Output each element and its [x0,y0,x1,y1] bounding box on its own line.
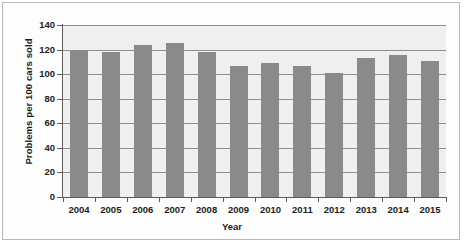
x-tick-mark-10 [382,197,383,202]
x-axis-title: Year [0,221,464,232]
y-tick-label-40: 40 [15,142,55,153]
y-axis-line [62,24,63,198]
y-tick-mark-100 [57,74,62,75]
y-tick-label-wrap-120: 120 [15,44,55,56]
bar-2012 [325,73,343,197]
bar-2005 [102,52,120,197]
y-tick-label-0: 0 [15,191,55,202]
y-tick-label-wrap-140: 140 [15,19,55,31]
bar-2010 [261,63,279,197]
gridline-140 [63,25,446,26]
plot-area [63,25,446,197]
x-tick-mark-12 [446,197,447,202]
gridline-120 [63,50,446,51]
x-tick-mark-11 [414,197,415,202]
bar-2015 [421,61,439,197]
y-tick-label-wrap-20: 20 [15,166,55,178]
y-tick-mark-80 [57,99,62,100]
y-tick-label-wrap-80: 80 [15,93,55,105]
y-tick-label-wrap-0: 0 [15,191,55,203]
bar-2011 [293,66,311,197]
x-tick-mark-9 [350,197,351,202]
y-tick-label-120: 120 [15,44,55,55]
x-tick-mark-4 [191,197,192,202]
x-tick-mark-2 [127,197,128,202]
y-tick-label-100: 100 [15,68,55,79]
x-tick-mark-5 [223,197,224,202]
y-tick-mark-60 [57,123,62,124]
x-tick-mark-0 [63,197,64,202]
bar-2013 [357,58,375,197]
x-tick-mark-7 [286,197,287,202]
y-tick-label-wrap-40: 40 [15,142,55,154]
x-tick-mark-3 [159,197,160,202]
y-tick-mark-0 [57,197,62,198]
y-tick-label-20: 20 [15,166,55,177]
x-tick-mark-6 [255,197,256,202]
x-tick-label-2015: 2015 [410,204,450,215]
bar-chart-figure: Problems per 100 cars sold 0204060801001… [0,0,464,248]
y-tick-label-80: 80 [15,93,55,104]
y-tick-label-60: 60 [15,117,55,128]
bar-2008 [198,52,216,197]
bar-2004 [70,51,88,197]
bar-2014 [389,55,407,198]
bar-2007 [166,43,184,197]
y-tick-label-wrap-100: 100 [15,68,55,80]
y-tick-label-140: 140 [15,19,55,30]
x-tick-mark-8 [318,197,319,202]
y-tick-mark-120 [57,50,62,51]
y-tick-mark-20 [57,172,62,173]
bar-2009 [230,66,248,197]
y-tick-mark-140 [57,25,62,26]
bar-2006 [134,45,152,197]
y-tick-label-wrap-60: 60 [15,117,55,129]
x-tick-mark-1 [95,197,96,202]
y-tick-mark-40 [57,148,62,149]
